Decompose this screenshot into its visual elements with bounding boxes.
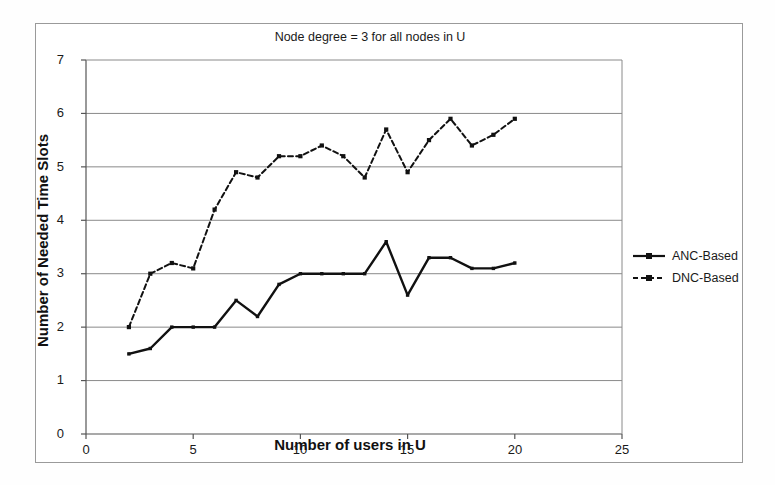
legend-swatch-dashed-icon [632,272,666,284]
x-tick-label-10: 10 [285,442,315,457]
y-tick-label-4: 4 [40,212,64,227]
figure-root: Node degree = 3 for all nodes in U Numbe… [0,0,775,485]
legend-label-anc-based: ANC-Based [672,249,738,263]
x-tick-label-0: 0 [71,442,101,457]
chart-frame-border [35,23,743,463]
y-tick-label-1: 1 [40,372,64,387]
y-tick-label-6: 6 [40,105,64,120]
x-tick-label-25: 25 [607,442,637,457]
x-axis-title: Number of users in U [160,436,540,453]
y-tick-label-0: 0 [40,426,64,441]
legend-swatch-solid-icon [632,250,666,262]
x-tick-label-5: 5 [178,442,208,457]
x-tick-label-15: 15 [392,442,422,457]
y-tick-label-5: 5 [40,159,64,174]
y-tick-label-2: 2 [40,319,64,334]
legend-item-anc-based: ANC-Based [632,245,752,267]
chart-title: Node degree = 3 for all nodes in U [220,30,520,44]
y-tick-label-7: 7 [40,52,64,67]
chart-legend: ANC-Based DNC-Based [632,245,752,289]
y-tick-label-3: 3 [40,265,64,280]
x-tick-label-20: 20 [500,442,530,457]
legend-label-dnc-based: DNC-Based [672,271,739,285]
legend-item-dnc-based: DNC-Based [632,267,752,289]
